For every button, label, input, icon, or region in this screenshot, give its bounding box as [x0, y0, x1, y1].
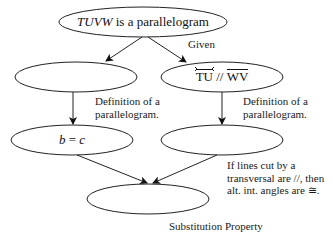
reason-line: Definition of a [243, 95, 308, 108]
node-right-1-text: TU // WV [161, 69, 283, 85]
arrow-left2-to-bottom [77, 155, 147, 183]
reason-alt-int-angles: If lines cut by a transversal are //, th… [227, 159, 324, 197]
arrow-right2-to-bottom [153, 155, 217, 183]
arrow-top-to-right1 [148, 37, 186, 62]
reason-definition-right: Definition of a parallelogram. [243, 95, 308, 120]
var-c: c [79, 132, 85, 147]
reason-line: alt. int. angles are ≅. [227, 184, 324, 197]
node-right-2 [161, 125, 283, 155]
node-bottom [87, 184, 209, 214]
equals-sign: = [65, 132, 79, 147]
reason-line: parallelogram. [95, 108, 160, 121]
reason-line: transversal are //, then [227, 172, 324, 185]
reason-line: If lines cut by a [227, 159, 324, 172]
quadrilateral-name: TUVW [77, 14, 112, 29]
reason-definition-left: Definition of a parallelogram. [95, 95, 160, 120]
node-top-rest: is a parallelogram [113, 14, 209, 29]
node-left-2-text: b = c [11, 132, 133, 148]
parallel-symbol: // [213, 69, 227, 84]
node-top-text: TUVW is a parallelogram [59, 14, 227, 30]
line-tu: TU [196, 69, 213, 85]
node-left-1 [15, 62, 137, 92]
arrow-top-to-left1 [106, 37, 142, 61]
reason-line: parallelogram. [243, 108, 308, 121]
reason-substitution: Substitution Property [169, 220, 263, 233]
reason-line: Definition of a [95, 95, 160, 108]
reason-given: Given [188, 38, 215, 51]
segment-wv: WV [227, 69, 249, 85]
